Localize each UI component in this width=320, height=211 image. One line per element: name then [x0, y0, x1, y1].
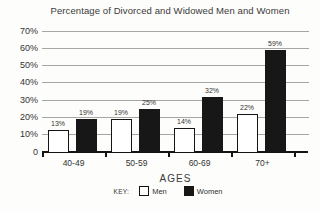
y-tick-label: 40% — [0, 78, 38, 87]
gridline — [42, 31, 309, 32]
y-tick-label: 30% — [0, 96, 38, 105]
bar-value-label: 19% — [105, 109, 137, 117]
category-label: 60-69 — [168, 158, 231, 168]
x-axis-tick — [42, 152, 44, 157]
category-label: 40-49 — [42, 158, 105, 168]
bar-men-40-49 — [48, 130, 69, 152]
bar-value-label: 13% — [42, 120, 74, 128]
bar-value-label: 59% — [259, 40, 291, 48]
x-axis-title: AGES — [42, 173, 309, 184]
y-tick-label: 50% — [0, 61, 38, 70]
x-axis-tick — [168, 152, 170, 157]
x-axis-tick — [105, 152, 107, 157]
bar-value-label: 14% — [168, 118, 200, 126]
bar-women-50-59 — [139, 109, 160, 152]
bar-women-70+ — [265, 50, 286, 152]
y-tick-label: 60% — [0, 44, 38, 53]
bar-value-label: 22% — [231, 104, 263, 112]
bar-value-label: 19% — [70, 109, 102, 117]
legend-item-women: Women — [184, 186, 223, 196]
bar-women-40-49 — [76, 119, 97, 152]
legend-item-men: Men — [139, 186, 167, 196]
y-tick-label: 10% — [0, 130, 38, 139]
legend-key-label: KEY: — [114, 188, 130, 195]
bar-men-70+ — [237, 114, 258, 152]
y-tick-label: 0 — [0, 148, 38, 157]
legend-women-label: Women — [197, 187, 223, 196]
plot-area: 010%20%30%40%50%60%70%40-4913%19%50-5919… — [42, 31, 309, 152]
y-tick-label: 20% — [0, 113, 38, 122]
y-tick-label: 70% — [0, 27, 38, 36]
bar-men-50-59 — [111, 119, 132, 152]
category-label: 50-59 — [105, 158, 168, 168]
x-axis-tick — [294, 152, 296, 157]
legend-men-label: Men — [152, 187, 167, 196]
category-label: 70+ — [231, 158, 294, 168]
women-swatch-icon — [184, 186, 194, 196]
bar-value-label: 25% — [133, 99, 165, 107]
bar-men-60-69 — [174, 128, 195, 152]
men-swatch-icon — [139, 186, 149, 196]
bar-value-label: 32% — [196, 87, 228, 95]
chart-title: Percentage of Divorced and Widowed Men a… — [40, 5, 300, 16]
x-axis-tick — [231, 152, 233, 157]
legend: KEY: Men Women — [0, 186, 320, 196]
bar-women-60-69 — [202, 97, 223, 152]
